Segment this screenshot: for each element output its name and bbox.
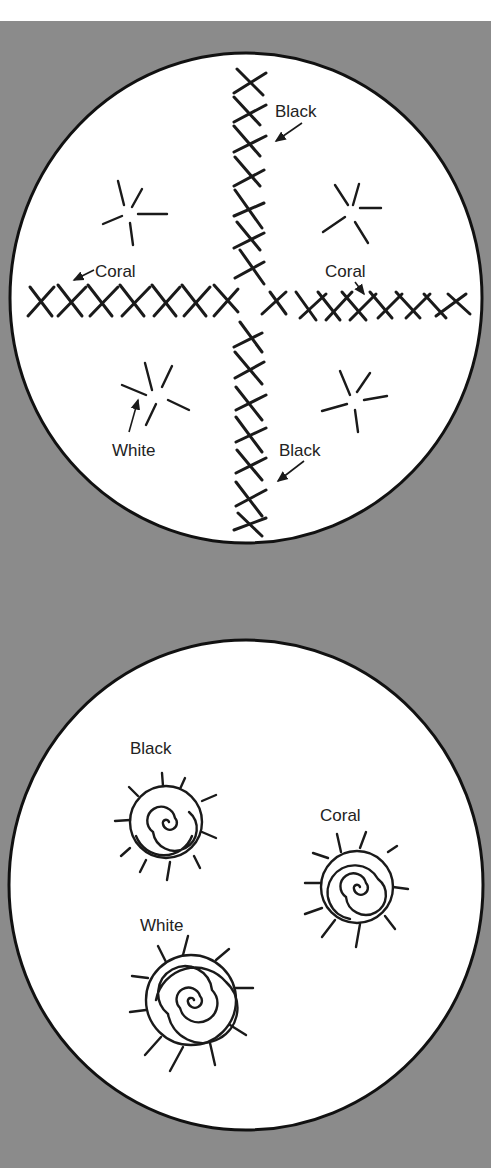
svg-text:Coral: Coral <box>95 262 136 281</box>
svg-text:Coral: Coral <box>320 806 361 825</box>
svg-text:Coral: Coral <box>325 262 366 281</box>
svg-text:White: White <box>112 441 155 460</box>
svg-text:Black: Black <box>130 739 172 758</box>
embroidery-diagram: Black Coral Coral White Black <box>0 0 496 1172</box>
diagram-canvas: Black Coral Coral White Black <box>0 0 496 1172</box>
svg-text:Black: Black <box>275 102 317 121</box>
svg-text:White: White <box>140 916 183 935</box>
svg-text:Black: Black <box>279 441 321 460</box>
bottom-circle <box>9 640 483 1130</box>
